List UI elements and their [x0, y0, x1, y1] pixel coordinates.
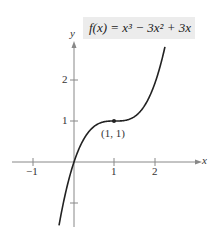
- x-axis-label: x: [202, 154, 207, 166]
- x-axis-arrow-icon: [195, 160, 202, 165]
- point-annotation: (1, 1): [101, 127, 125, 139]
- x-tick-label-1: 1: [111, 165, 117, 177]
- x-tick-label-2: 2: [152, 165, 158, 177]
- equation-label: f(x) = x³ − 3x² + 3x: [83, 17, 195, 39]
- y-axis-label: y: [70, 27, 75, 39]
- y-axis-arrow-icon: [72, 41, 77, 48]
- tick-marks: [33, 80, 155, 203]
- inflection-point-marker: [112, 119, 116, 123]
- y-tick-label-2: 2: [62, 73, 68, 85]
- x-tick-label-neg1: −1: [26, 165, 38, 177]
- y-tick-label-1: 1: [62, 114, 68, 126]
